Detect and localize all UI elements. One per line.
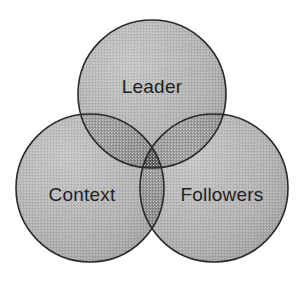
label-context: Context bbox=[49, 184, 116, 205]
label-leader: Leader bbox=[122, 76, 183, 97]
venn-diagram-figure: Leader Context Followers bbox=[0, 0, 302, 281]
venn-diagram-canvas: Leader Context Followers bbox=[0, 0, 302, 281]
label-followers: Followers bbox=[180, 184, 263, 205]
venn-shading-layer bbox=[16, 20, 288, 262]
